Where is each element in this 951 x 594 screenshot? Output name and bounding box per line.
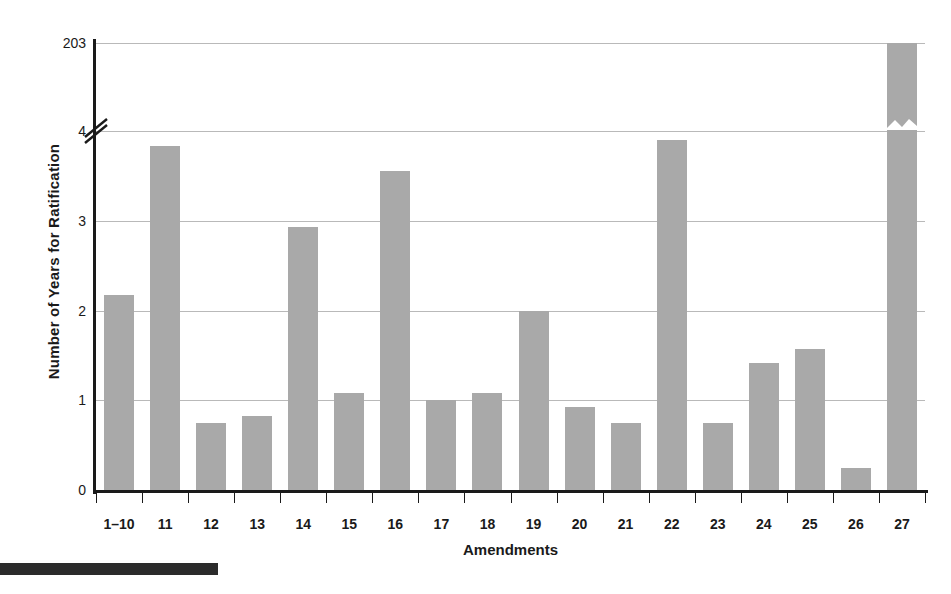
gridline: [96, 131, 925, 132]
x-tick-mark: [649, 490, 650, 503]
gridline: [96, 43, 925, 44]
x-tick-mark: [326, 490, 327, 503]
y-tick-label: 1: [34, 392, 86, 408]
x-tick-mark: [142, 490, 143, 503]
page-decoration-rule: [0, 563, 218, 575]
bar: [519, 311, 549, 491]
x-tick-mark: [557, 490, 558, 503]
x-tick-mark: [188, 490, 189, 503]
x-tick-mark: [511, 490, 512, 503]
y-tick-label: 3: [34, 213, 86, 229]
bar-break-icon: [887, 117, 917, 130]
bar: [887, 43, 917, 490]
x-tick-mark: [418, 490, 419, 503]
bar: [426, 400, 456, 490]
y-axis-title: Number of Years for Ratification: [45, 97, 62, 427]
x-tick-mark: [372, 490, 373, 503]
x-axis-title: Amendments: [96, 541, 925, 558]
y-tick-label: 0: [34, 482, 86, 498]
bar: [150, 146, 180, 490]
y-tick-label: 203: [34, 35, 86, 51]
bar: [565, 407, 595, 490]
x-tick-mark: [603, 490, 604, 503]
axis-break-icon: [81, 113, 115, 145]
plot-area: 01234203 1–10111213141516171819202122232…: [96, 43, 925, 490]
x-tick-mark: [833, 490, 834, 503]
y-tick-label: 4: [34, 123, 86, 139]
bar: [104, 295, 134, 490]
x-tick-mark: [464, 490, 465, 503]
bar: [242, 416, 272, 490]
x-tick-mark: [695, 490, 696, 503]
bar: [841, 468, 871, 490]
bar: [288, 227, 318, 490]
x-tick-mark: [280, 490, 281, 503]
x-tick-mark: [234, 490, 235, 503]
gridline: [96, 311, 925, 312]
bar: [657, 140, 687, 490]
bar: [334, 393, 364, 490]
x-tick-mark: [787, 490, 788, 503]
y-axis-line: [93, 39, 96, 494]
bar: [196, 423, 226, 490]
bar: [749, 363, 779, 490]
bar: [795, 349, 825, 490]
bar: [703, 423, 733, 490]
bar-chart-figure: Number of Years for Ratification 0123420…: [0, 0, 951, 594]
x-tick-mark: [96, 490, 97, 503]
y-tick-label: 2: [34, 303, 86, 319]
x-tick-mark: [925, 490, 926, 503]
bar: [472, 393, 502, 490]
x-tick-mark: [741, 490, 742, 503]
bar: [611, 423, 641, 490]
gridline: [96, 221, 925, 222]
x-tick-mark: [879, 490, 880, 503]
x-tick-label: 27: [867, 516, 937, 532]
bar: [380, 171, 410, 490]
